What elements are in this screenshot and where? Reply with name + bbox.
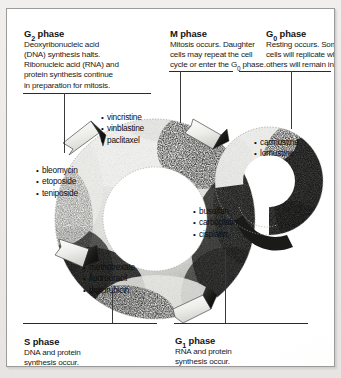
phase-title-g0-sub: 0 xyxy=(273,34,277,43)
phase-body-m-l2: cells may repeat the cell xyxy=(170,50,278,60)
phase-title-g1-sub: 1 xyxy=(182,341,186,350)
drug-list-m-phase: vincristine vinblastine paclitaxel xyxy=(101,112,144,146)
drug-item: lomustine xyxy=(254,148,299,159)
phase-body-s-l1: DNA and protein xyxy=(24,348,144,358)
figure-frame: G2 phase Deoxyribonucleic acid (DNA) syn… xyxy=(6,8,335,367)
phase-block-g0: G0 phase Resting occurs. Some cells will… xyxy=(266,28,335,70)
phase-title-g0: G0 phase xyxy=(266,28,335,39)
drug-list-s-phase: busulfan carboplatin cisplatin xyxy=(193,206,237,240)
drug-list-m-phase-items: vincristine vinblastine paclitaxel xyxy=(101,112,144,146)
phase-body-m-l3b: phase. xyxy=(240,60,265,69)
phase-body-s-l2: synthesis occur. xyxy=(24,358,144,367)
leader-g2-phase xyxy=(64,93,65,153)
leader-m-phase xyxy=(180,71,181,123)
drug-list-g0-phase: carmustine lomustine xyxy=(254,137,299,160)
phase-block-s: S phase DNA and protein synthesis occur. xyxy=(24,336,144,367)
phase-body-g2-l5: in preparation for mitosis. xyxy=(24,81,148,91)
phase-body-m-l1: Mitosis occurs. Daughter xyxy=(170,40,278,50)
phase-title-g1: G1 phase xyxy=(175,335,300,346)
phase-body-g2-l3: Ribonucleic acid (RNA) and xyxy=(24,60,148,70)
phase-body-g1-l1: RNA and protein xyxy=(175,347,300,357)
drug-list-g1-phase-items: methotrexate fluorouracil doxorubicin xyxy=(83,262,135,296)
phase-block-m: M phase Mitosis occurs. Daughter cells m… xyxy=(170,28,278,70)
phase-body-g1-l2: synthesis occur. xyxy=(175,357,300,367)
phase-title-g2-sub: 2 xyxy=(31,34,35,43)
rule-s-phase xyxy=(23,323,157,324)
drug-list-g0-phase-items: carmustine lomustine xyxy=(254,137,299,160)
phase-body-g0-l2: cells will replicate while xyxy=(266,50,335,60)
phase-block-g2: G2 phase Deoxyribonucleic acid (DNA) syn… xyxy=(24,28,148,91)
leader-g1-phase xyxy=(225,249,226,323)
phase-title-g1-tail: phase xyxy=(186,335,215,346)
phase-body-g1: RNA and protein synthesis occur. xyxy=(175,347,300,368)
drug-item: vinblastine xyxy=(101,123,144,134)
drug-list-g2-phase-items: bleomycin etoposide teniposide xyxy=(36,165,78,199)
drug-item: methotrexate xyxy=(83,262,135,273)
phase-title-g2-tail: phase xyxy=(35,28,64,39)
drug-item: paclitaxel xyxy=(101,135,144,146)
leader-g0-phase xyxy=(291,71,292,129)
drug-item: bleomycin xyxy=(36,165,78,176)
drug-item: carboplatin xyxy=(193,217,237,228)
drug-item: teniposide xyxy=(36,188,78,199)
rule-g1-phase xyxy=(174,323,308,324)
rule-g0-phase xyxy=(239,71,331,72)
phase-body-m-l3a: cycle or enter the G xyxy=(170,60,237,69)
phase-body-g2-l2: (DNA) synthesis halts. xyxy=(24,50,148,60)
phase-block-g1: G1 phase RNA and protein synthesis occur… xyxy=(175,335,300,367)
phase-body-g2-l4: protein synthesis continue xyxy=(24,70,148,80)
drug-item: carmustine xyxy=(254,137,299,148)
phase-body-g2-l1: Deoxyribonucleic acid xyxy=(24,40,148,50)
phase-title-s: S phase xyxy=(24,336,144,347)
drug-item: cisplatin xyxy=(193,229,237,240)
phase-title-g0-tail: phase xyxy=(277,28,306,39)
figure-page: G2 phase Deoxyribonucleic acid (DNA) syn… xyxy=(0,0,341,378)
rule-m-phase xyxy=(169,71,233,72)
drug-list-g2-phase: bleomycin etoposide teniposide xyxy=(36,165,78,199)
phase-body-g2: Deoxyribonucleic acid (DNA) synthesis ha… xyxy=(24,40,148,91)
drug-item: doxorubicin xyxy=(83,285,135,296)
phase-body-m-l3: cycle or enter the G0 phase. xyxy=(170,60,278,70)
phase-body-m: Mitosis occurs. Daughter cells may repea… xyxy=(170,40,278,71)
phase-title-g2: G2 phase xyxy=(24,28,148,39)
drug-item: fluorouracil xyxy=(83,273,135,284)
phase-body-g0: Resting occurs. Some cells will replicat… xyxy=(266,40,335,71)
drug-item: busulfan xyxy=(193,206,237,217)
phase-body-m-l3sub: 0 xyxy=(237,65,240,72)
drug-list-s-phase-items: busulfan carboplatin cisplatin xyxy=(193,206,237,240)
phase-body-s: DNA and protein synthesis occur. xyxy=(24,348,144,368)
rule-g2-phase xyxy=(23,93,151,94)
drug-item: etoposide xyxy=(36,176,78,187)
phase-title-m: M phase xyxy=(170,28,278,39)
phase-body-g0-l3: others will remain inactive. xyxy=(266,60,335,70)
drug-item: vincristine xyxy=(101,112,144,123)
drug-list-g1-phase: methotrexate fluorouracil doxorubicin xyxy=(83,262,135,296)
